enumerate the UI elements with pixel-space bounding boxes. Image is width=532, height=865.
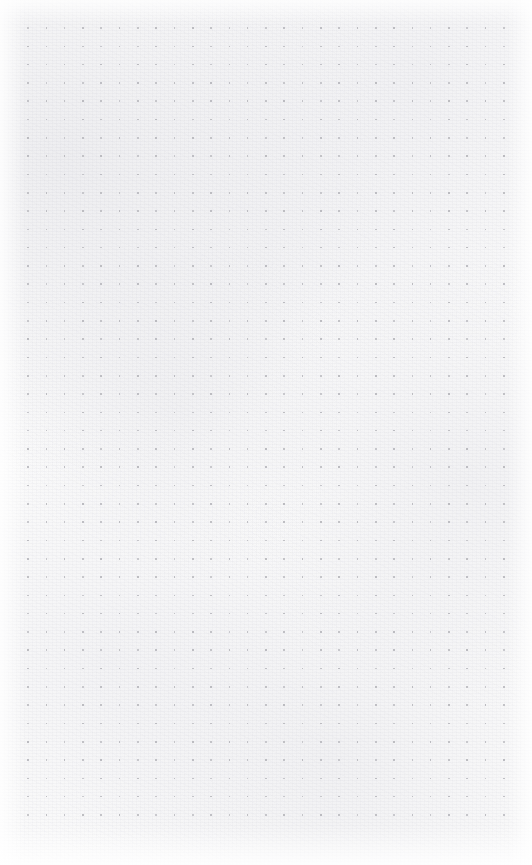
dot-grid-page [0,0,532,865]
paper-background [0,0,532,865]
